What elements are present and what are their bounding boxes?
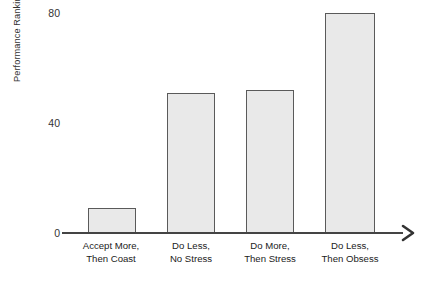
y-axis-tick-labels: 80 40 0 [16, 0, 60, 284]
x-axis-label-3-line2: Then Obsess [295, 253, 405, 266]
y-tick-label: 40 [20, 118, 60, 128]
x-axis-label-2-line1: Do More, [250, 240, 289, 251]
bar-do-more-then-stress [246, 90, 294, 233]
bar-do-less-then-obsess [325, 13, 375, 233]
bar-series [62, 0, 410, 233]
x-axis-line [62, 232, 403, 234]
x-axis-label-3: Do Less, Then Obsess [295, 240, 405, 265]
bar-do-less-no-stress [167, 93, 215, 233]
x-axis-label-3-line1: Do Less, [331, 240, 369, 251]
bar-chart: Performance Ranking (Percentile) 80 40 0… [0, 0, 428, 284]
x-axis-category-labels: Accept More, Then Coast Do Less, No Stre… [62, 240, 410, 280]
x-axis-label-0-line1: Accept More, [83, 240, 140, 251]
y-tick-label: 80 [20, 8, 60, 18]
y-tick-label: 0 [20, 228, 60, 238]
bar-accept-more-then-coast [88, 208, 136, 233]
x-axis-label-1-line1: Do Less, [172, 240, 210, 251]
